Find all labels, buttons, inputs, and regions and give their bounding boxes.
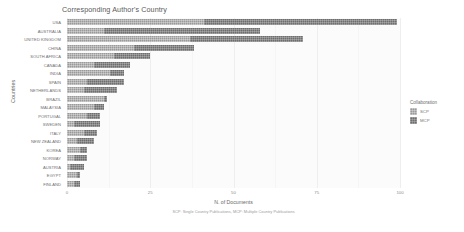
x-axis-title: N. of Documents bbox=[67, 199, 400, 205]
bar-segment-mcp[interactable] bbox=[74, 181, 81, 187]
bar-segment-mcp[interactable] bbox=[74, 155, 87, 161]
bar-row[interactable] bbox=[67, 53, 150, 59]
bar-row[interactable] bbox=[67, 147, 87, 153]
bar-segment-scp[interactable] bbox=[67, 130, 84, 136]
y-axis-tick-labels: USAAUSTRALIAUNITED KINGDOMCHINASOUTH AFR… bbox=[0, 18, 64, 188]
x-tick-label: 50 bbox=[231, 190, 236, 195]
bar-segment-mcp[interactable] bbox=[114, 53, 151, 59]
legend-item[interactable]: SCP bbox=[410, 108, 437, 115]
bar-row[interactable] bbox=[67, 172, 80, 178]
y-tick-label: AUSTRIA bbox=[43, 164, 61, 169]
bar-segment-scp[interactable] bbox=[67, 28, 104, 34]
bar-segment-mcp[interactable] bbox=[190, 36, 303, 42]
bar-row[interactable] bbox=[67, 19, 397, 25]
bar-row[interactable] bbox=[67, 181, 80, 187]
bar-row[interactable] bbox=[67, 28, 260, 34]
x-tick-label: 25 bbox=[148, 190, 153, 195]
bar-row[interactable] bbox=[67, 96, 107, 102]
y-tick-label: BRAZIL bbox=[46, 96, 61, 101]
legend: Collaboration SCPMCP bbox=[410, 100, 437, 126]
y-tick-label: EGYPT bbox=[47, 173, 61, 178]
bar-row[interactable] bbox=[67, 130, 97, 136]
y-tick-label: ITALY bbox=[50, 130, 61, 135]
y-tick-label: CHINA bbox=[48, 45, 61, 50]
y-tick-label: MALAYSIA bbox=[40, 105, 61, 110]
bar-segment-scp[interactable] bbox=[67, 121, 74, 127]
bar-segment-mcp[interactable] bbox=[74, 121, 101, 127]
bar-segment-scp[interactable] bbox=[67, 172, 77, 178]
bar-segment-scp[interactable] bbox=[67, 36, 190, 42]
bar-row[interactable] bbox=[67, 164, 84, 170]
bar-row[interactable] bbox=[67, 70, 124, 76]
bar-segment-mcp[interactable] bbox=[84, 87, 117, 93]
bar-segment-mcp[interactable] bbox=[77, 172, 80, 178]
legend-item[interactable]: MCP bbox=[410, 117, 437, 124]
y-tick-label: AUSTRALIA bbox=[38, 28, 61, 33]
bar-row[interactable] bbox=[67, 121, 100, 127]
y-tick-label: INDIA bbox=[50, 71, 61, 76]
chart-figure: Corresponding Author's Country USAAUSTRA… bbox=[0, 0, 464, 232]
bar-segment-scp[interactable] bbox=[67, 96, 104, 102]
bar-segment-mcp[interactable] bbox=[104, 96, 107, 102]
bar-segment-mcp[interactable] bbox=[94, 62, 131, 68]
bar-segment-mcp[interactable] bbox=[77, 138, 94, 144]
bar-segment-mcp[interactable] bbox=[84, 130, 97, 136]
chart-caption: SCP: Single Country Publications, MCP: M… bbox=[67, 209, 400, 214]
legend-swatch bbox=[410, 108, 417, 115]
y-tick-label: SPAIN bbox=[49, 79, 61, 84]
bar-segment-scp[interactable] bbox=[67, 181, 74, 187]
bar-row[interactable] bbox=[67, 45, 194, 51]
bar-segment-scp[interactable] bbox=[67, 87, 84, 93]
bar-row[interactable] bbox=[67, 155, 87, 161]
legend-title: Collaboration bbox=[410, 100, 437, 105]
y-tick-label: SWEDEN bbox=[43, 122, 61, 127]
bar-row[interactable] bbox=[67, 113, 100, 119]
y-axis-title: Countries bbox=[10, 80, 16, 103]
bar-segment-mcp[interactable] bbox=[80, 147, 87, 153]
bar-row[interactable] bbox=[67, 36, 303, 42]
bar-segment-mcp[interactable] bbox=[204, 19, 397, 25]
gridline-major bbox=[400, 18, 401, 188]
y-tick-label: NORWAY bbox=[43, 156, 61, 161]
y-tick-label: USA bbox=[52, 20, 61, 25]
bar-row[interactable] bbox=[67, 62, 130, 68]
bar-segment-mcp[interactable] bbox=[70, 164, 83, 170]
legend-items: SCPMCP bbox=[410, 108, 437, 124]
x-tick-label: 100 bbox=[396, 190, 403, 195]
bar-row[interactable] bbox=[67, 104, 104, 110]
bar-row[interactable] bbox=[67, 79, 124, 85]
y-tick-label: NETHERLANDS bbox=[30, 88, 61, 93]
bar-segment-scp[interactable] bbox=[67, 155, 74, 161]
bar-segment-scp[interactable] bbox=[67, 70, 110, 76]
y-tick-label: FINLAND bbox=[43, 181, 61, 186]
x-tick-label: 0 bbox=[66, 190, 68, 195]
y-tick-label: NEW ZEALAND bbox=[31, 139, 61, 144]
bar-segment-mcp[interactable] bbox=[87, 113, 100, 119]
bar-segment-scp[interactable] bbox=[67, 113, 87, 119]
bar-segment-scp[interactable] bbox=[67, 62, 94, 68]
bar-segment-mcp[interactable] bbox=[94, 104, 104, 110]
bar-segment-mcp[interactable] bbox=[134, 45, 194, 51]
bar-segment-scp[interactable] bbox=[67, 79, 87, 85]
bar-segment-mcp[interactable] bbox=[104, 28, 261, 34]
bar-segment-scp[interactable] bbox=[67, 138, 77, 144]
bar-segment-mcp[interactable] bbox=[87, 79, 124, 85]
legend-label: MCP bbox=[420, 118, 430, 123]
plot-panel bbox=[67, 18, 400, 188]
bar-segment-scp[interactable] bbox=[67, 147, 80, 153]
bar-segment-scp[interactable] bbox=[67, 19, 204, 25]
bar-segment-scp[interactable] bbox=[67, 104, 94, 110]
x-tick-label: 75 bbox=[314, 190, 319, 195]
y-tick-label: CANADA bbox=[44, 62, 61, 67]
y-tick-label: UNITED KINGDOM bbox=[24, 37, 61, 42]
y-tick-label: SOUTH AFRICA bbox=[30, 54, 61, 59]
bar-row[interactable] bbox=[67, 87, 117, 93]
legend-swatch bbox=[410, 117, 417, 124]
bar-segment-scp[interactable] bbox=[67, 45, 134, 51]
bar-segment-scp[interactable] bbox=[67, 53, 114, 59]
chart-title: Corresponding Author's Country bbox=[62, 5, 167, 14]
bar-row[interactable] bbox=[67, 138, 94, 144]
x-axis-tick-labels: 0255075100 bbox=[67, 190, 400, 199]
legend-label: SCP bbox=[420, 109, 429, 114]
bar-segment-mcp[interactable] bbox=[110, 70, 123, 76]
